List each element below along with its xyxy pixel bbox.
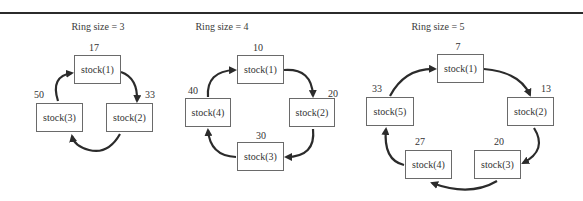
ring4-node-2: stock(2) bbox=[289, 98, 335, 127]
arrow-r3-2-3 bbox=[72, 134, 120, 151]
ring5-title: Ring size = 5 bbox=[411, 21, 464, 32]
arrow-r3-3-1 bbox=[56, 73, 72, 101]
ring3-value-3: 50 bbox=[34, 89, 44, 100]
ring5-node-4: stock(4) bbox=[405, 150, 452, 179]
ring3-value-1: 17 bbox=[89, 42, 99, 53]
arrow-r5-4-5 bbox=[386, 129, 404, 165]
ring5-node-2: stock(2) bbox=[507, 97, 554, 126]
arrow-r5-1-2 bbox=[484, 69, 530, 95]
ring3-value-2: 33 bbox=[145, 89, 155, 100]
ring3-node-1: stock(1) bbox=[74, 55, 121, 84]
ring5-value-4: 27 bbox=[415, 136, 425, 147]
arrow-r4-3-4 bbox=[208, 130, 236, 157]
arrow-r5-5-1 bbox=[390, 69, 435, 96]
arrow-r5-3-4 bbox=[432, 181, 497, 190]
arrow-r5-2-3 bbox=[523, 128, 539, 163]
arrow-r3-1-2 bbox=[121, 72, 137, 101]
ring5-value-5: 33 bbox=[372, 83, 382, 94]
ring5-value-3: 20 bbox=[494, 136, 504, 147]
arrow-r4-2-3 bbox=[286, 129, 313, 157]
ring4-node-4: stock(4) bbox=[185, 98, 231, 127]
ring4-node-3: stock(3) bbox=[237, 142, 284, 171]
ring3-node-3: stock(3) bbox=[36, 103, 83, 132]
ring5-value-1: 7 bbox=[456, 41, 461, 52]
arrow-r4-4-1 bbox=[208, 70, 235, 97]
ring5-value-2: 13 bbox=[541, 83, 551, 94]
ring5-node-5: stock(5) bbox=[366, 97, 414, 126]
ring4-value-3: 30 bbox=[256, 130, 266, 141]
ring3-title: Ring size = 3 bbox=[71, 21, 124, 32]
ring4-value-1: 10 bbox=[253, 42, 263, 53]
ring3-node-2: stock(2) bbox=[106, 103, 153, 132]
ring5-node-1: stock(1) bbox=[437, 54, 484, 83]
ring4-value-4: 40 bbox=[188, 85, 198, 96]
ring4-node-1: stock(1) bbox=[237, 55, 284, 84]
arrow-r4-1-2 bbox=[284, 70, 313, 96]
ring4-title: Ring size = 4 bbox=[195, 21, 248, 32]
ring5-node-3: stock(3) bbox=[474, 150, 521, 179]
